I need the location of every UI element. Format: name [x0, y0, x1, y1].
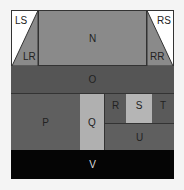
region-u: U [104, 124, 174, 150]
label-p: P [42, 117, 49, 128]
label-r: R [112, 100, 119, 111]
region-p: P [11, 94, 80, 150]
label-u: U [136, 132, 143, 143]
region-s: S [126, 94, 152, 124]
label-n: N [89, 33, 96, 44]
diagram-frame: N LS LR RS RR O P Q R S T U V [11, 10, 174, 179]
label-lr: LR [23, 51, 36, 62]
label-ls: LS [15, 15, 27, 26]
label-rs: RS [157, 15, 171, 26]
label-q: Q [88, 117, 96, 128]
label-rr: RR [150, 51, 164, 62]
region-n: N [38, 10, 147, 66]
label-v: V [89, 159, 96, 170]
label-t: T [160, 100, 166, 111]
region-t: T [152, 94, 174, 124]
region-v: V [11, 150, 174, 179]
region-q: Q [80, 94, 104, 150]
region-r: R [104, 94, 126, 124]
label-s: S [136, 100, 143, 111]
region-o: O [11, 66, 174, 94]
label-o: O [89, 74, 97, 85]
